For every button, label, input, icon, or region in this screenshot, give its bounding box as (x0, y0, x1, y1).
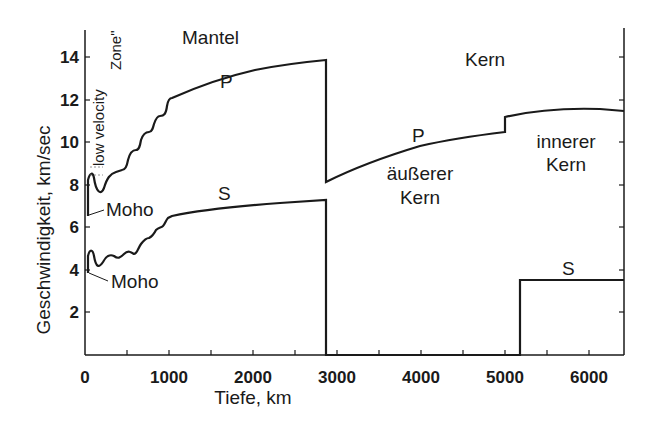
label-low-velocity: low velocity (90, 89, 107, 166)
y-tick-label: 4 (70, 261, 80, 280)
x-tick-label: 0 (80, 368, 89, 387)
axes (85, 28, 624, 355)
y-axis-title: Geschwindigkeit, km/sec (33, 125, 54, 334)
velocity-depth-chart: 0 1000 2000 3000 4000 5000 6000 2 4 6 8 … (0, 0, 663, 433)
label-inner-core-1: innerer (536, 131, 596, 152)
x-tick-label: 4000 (402, 368, 440, 387)
x-tick-label: 2000 (234, 368, 272, 387)
label-p-mantle: P (220, 71, 233, 92)
x-tick-label: 6000 (570, 368, 608, 387)
label-moho-s: Moho (111, 271, 159, 292)
label-inner-core-2: Kern (546, 154, 586, 175)
s-wave-curve (88, 200, 624, 355)
y-tick-label: 14 (60, 48, 79, 67)
label-mantel: Mantel (182, 27, 239, 48)
moho-p-leader (89, 210, 104, 215)
label-outer-core-2: Kern (400, 187, 440, 208)
x-axis-title: Tiefe, km (214, 387, 291, 408)
label-s-mantle: S (218, 183, 231, 204)
y-ticks (85, 57, 624, 312)
x-tick-label: 3000 (318, 368, 356, 387)
label-outer-core-1: äußerer (387, 163, 454, 184)
label-zone: Zone" (107, 30, 124, 70)
label-kern: Kern (465, 49, 505, 70)
y-tick-label: 6 (70, 218, 79, 237)
y-tick-label: 12 (60, 91, 79, 110)
y-tick-label: 2 (70, 303, 79, 322)
x-tick-label: 1000 (150, 368, 188, 387)
moho-s-leader (89, 273, 108, 281)
label-p-core: P (412, 125, 425, 146)
y-tick-label: 10 (60, 133, 79, 152)
y-tick-label: 8 (70, 176, 79, 195)
label-s-core: S (562, 258, 575, 279)
label-moho-p: Moho (106, 199, 154, 220)
x-tick-label: 5000 (486, 368, 524, 387)
